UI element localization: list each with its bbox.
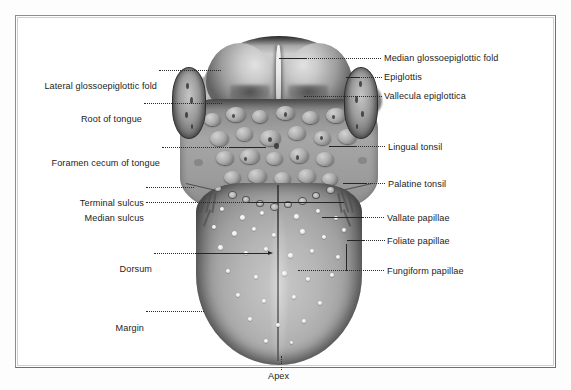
leader-median-sulcus <box>146 202 248 203</box>
leader-median-sulcus-solid <box>248 202 344 203</box>
leader-epiglottis-solid <box>346 77 358 78</box>
leader-palatine-tonsil-solid <box>343 183 365 184</box>
label-lateral-glossoepiglottic-fold: Lateral glossoepiglottic fold <box>16 81 157 91</box>
leader-palatine-tonsil <box>365 183 385 184</box>
leader-lingual-tonsil-solid <box>329 146 355 147</box>
leader-vallate-papillae-solid <box>322 217 362 218</box>
median-sulcus-groove <box>277 185 279 361</box>
label-vallate-papillae: Vallate papillae <box>387 213 450 223</box>
label-root-of-tongue: Root of tongue <box>16 114 142 124</box>
label-fungiform-papillae: Fungiform papillae <box>387 266 464 276</box>
label-median-glossoepiglottic-fold: Median glossoepiglottic fold <box>384 53 499 63</box>
arrowhead-dorsum <box>268 251 273 255</box>
leader-vallate-papillae <box>362 217 384 218</box>
label-foliate-papillae: Foliate papillae <box>387 236 450 246</box>
leader-fungiform-papillae <box>298 270 384 271</box>
figure-page: Lateral glossoepiglottic fold Root of to… <box>0 0 571 390</box>
leader-foliate-papillae-solid <box>347 240 363 241</box>
leader-foramen-cecum-of-tongue-solid <box>230 147 266 148</box>
label-apex: Apex <box>268 371 289 381</box>
leader-fungiform-papillae-riser <box>346 244 347 271</box>
leader-vallecula-epiglottica <box>304 96 382 97</box>
label-lingual-tonsil: Lingual tonsil <box>388 142 442 152</box>
leader-lingual-tonsil <box>355 146 385 147</box>
label-margin: Margin <box>16 323 144 333</box>
leader-margin <box>146 311 204 312</box>
leader-lateral-glossoepiglottic-fold <box>159 70 221 71</box>
leader-terminal-sulcus <box>146 187 194 188</box>
leader-root-of-tongue <box>144 103 222 104</box>
leader-foramen-cecum-of-tongue <box>162 147 230 148</box>
label-palatine-tonsil: Palatine tonsil <box>388 179 446 189</box>
leader-median-glossoepiglottic-fold-solid <box>279 58 305 59</box>
plate-frame: Lateral glossoepiglottic fold Root of to… <box>15 15 556 368</box>
leader-apex <box>281 356 282 370</box>
leader-dorsum <box>154 253 196 254</box>
label-median-sulcus: Median sulcus <box>16 213 144 223</box>
label-terminal-sulcus: Terminal sulcus <box>16 198 144 208</box>
leader-foliate-papillae <box>363 240 385 241</box>
label-dorsum: Dorsum <box>16 264 152 274</box>
label-foramen-cecum-of-tongue: Foramen cecum of tongue <box>16 158 160 168</box>
leader-epiglottis <box>358 77 382 78</box>
leader-median-glossoepiglottic-fold <box>305 58 381 59</box>
leader-dorsum-solid <box>196 253 270 254</box>
dorsum-of-tongue <box>196 183 362 365</box>
label-epiglottis: Epiglottis <box>384 72 422 82</box>
label-vallecula-epiglottica: Vallecula epiglottica <box>384 91 466 101</box>
